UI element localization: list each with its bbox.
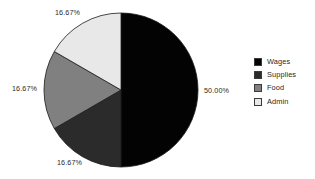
chart-legend: Wages Supplies Food Admin xyxy=(254,58,296,106)
slice-label-food: 16.67% xyxy=(12,84,37,93)
pie-slice-group xyxy=(44,13,198,167)
legend-swatch-food xyxy=(254,84,262,92)
slice-label-wages: 50.00% xyxy=(204,86,229,95)
legend-swatch-supplies xyxy=(254,71,262,79)
legend-label-wages: Wages xyxy=(267,58,290,66)
legend-item-wages: Wages xyxy=(254,58,296,66)
legend-item-admin: Admin xyxy=(254,98,296,106)
legend-label-food: Food xyxy=(267,84,284,92)
legend-label-admin: Admin xyxy=(267,98,288,106)
slice-label-admin: 16.67% xyxy=(55,8,80,17)
legend-swatch-admin xyxy=(254,98,262,106)
pie-slice-wages xyxy=(121,13,198,167)
pie-chart: 50.00% 16.67% 16.67% 16.67% Wages Suppli… xyxy=(0,0,315,179)
legend-swatch-wages xyxy=(254,58,262,66)
slice-label-supplies: 16.67% xyxy=(57,158,82,167)
legend-label-supplies: Supplies xyxy=(267,71,296,79)
legend-item-food: Food xyxy=(254,84,296,92)
legend-item-supplies: Supplies xyxy=(254,71,296,79)
